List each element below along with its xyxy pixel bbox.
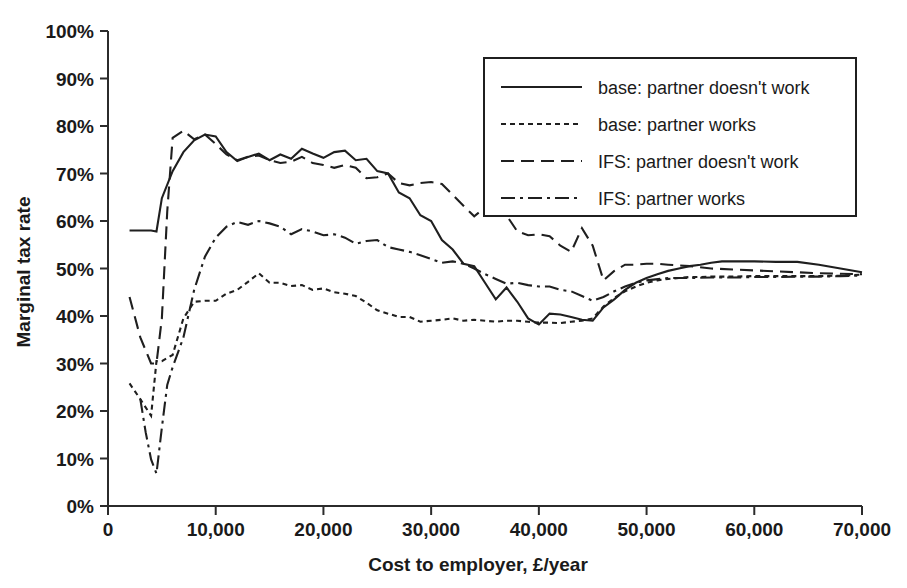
legend-label-0: base: partner doesn't work <box>598 78 811 98</box>
series-line-1 <box>130 273 862 416</box>
y-tick-label: 80% <box>56 116 94 137</box>
x-axis-title: Cost to employer, £/year <box>368 554 588 575</box>
y-tick-label: 10% <box>56 449 94 470</box>
y-tick-label: 30% <box>56 354 94 375</box>
legend: base: partner doesn't workbase: partner … <box>484 58 856 216</box>
y-tick-label: 100% <box>45 21 94 42</box>
legend-label-1: base: partner works <box>598 115 756 135</box>
y-tick-label: 60% <box>56 211 94 232</box>
legend-label-3: IFS: partner works <box>598 189 745 209</box>
x-tick-label: 20,000 <box>294 519 352 540</box>
x-tick-label: 30,000 <box>402 519 460 540</box>
marginal-tax-rate-chart: 0%10%20%30%40%50%60%70%80%90%100%010,000… <box>0 0 907 588</box>
legend-label-2: IFS: partner doesn't work <box>598 152 800 172</box>
y-tick-label: 20% <box>56 401 94 422</box>
y-axis-title: Marginal tax rate <box>13 197 34 348</box>
y-tick-label: 50% <box>56 259 94 280</box>
x-tick-label: 10,000 <box>187 519 245 540</box>
x-tick-label: 70,000 <box>833 519 891 540</box>
x-tick-label: 60,000 <box>725 519 783 540</box>
series-line-3 <box>140 221 862 474</box>
y-tick-label: 0% <box>67 496 95 517</box>
chart-container: 0%10%20%30%40%50%60%70%80%90%100%010,000… <box>0 0 907 588</box>
x-tick-label: 0 <box>103 519 114 540</box>
y-tick-label: 90% <box>56 69 94 90</box>
y-tick-label: 40% <box>56 306 94 327</box>
x-tick-label: 40,000 <box>510 519 568 540</box>
y-tick-label: 70% <box>56 164 94 185</box>
x-tick-label: 50,000 <box>618 519 676 540</box>
